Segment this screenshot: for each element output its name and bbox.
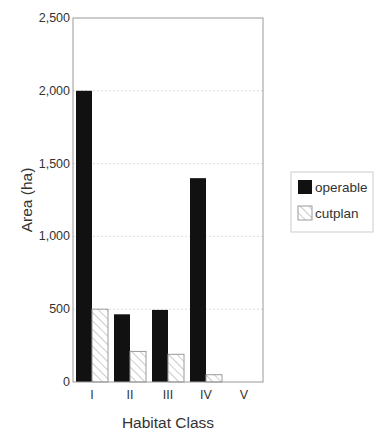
gridlines xyxy=(73,91,263,309)
x-tick-label: II xyxy=(127,388,134,402)
bar-cutplan-IV xyxy=(206,375,222,382)
bar-operable-II xyxy=(114,314,130,382)
bar-chart: 05001,0001,5002,0002,500 IIIIIIIVV Area … xyxy=(0,0,387,439)
y-tick-label: 0 xyxy=(63,375,70,389)
y-tick-label: 500 xyxy=(49,302,70,316)
bar-cutplan-III xyxy=(168,354,184,382)
legend-label-operable: operable xyxy=(315,180,368,195)
x-axis-ticks: IIIIIIIVV xyxy=(90,388,249,402)
bar-cutplan-II xyxy=(130,351,146,382)
bar-operable-IV xyxy=(190,178,206,382)
y-axis-title: Area (ha) xyxy=(18,168,35,233)
legend: operable cutplan xyxy=(291,172,373,232)
bar-operable-III xyxy=(152,310,168,382)
bar-cutplan-I xyxy=(92,309,108,382)
x-tick-label: V xyxy=(240,388,249,402)
y-tick-label: 2,500 xyxy=(39,11,70,25)
legend-swatch-cutplan xyxy=(298,206,312,220)
x-tick-label: IV xyxy=(200,388,212,402)
y-axis-ticks: 05001,0001,5002,0002,500 xyxy=(39,11,70,389)
bar-operable-I xyxy=(76,91,92,382)
y-tick-label: 1,000 xyxy=(39,229,70,243)
x-tick-label: I xyxy=(90,388,93,402)
legend-swatch-operable xyxy=(298,180,312,194)
y-tick-label: 1,500 xyxy=(39,157,70,171)
y-tick-label: 2,000 xyxy=(39,84,70,98)
x-tick-label: III xyxy=(163,388,173,402)
legend-label-cutplan: cutplan xyxy=(315,206,359,221)
x-axis-title: Habitat Class xyxy=(122,414,214,431)
